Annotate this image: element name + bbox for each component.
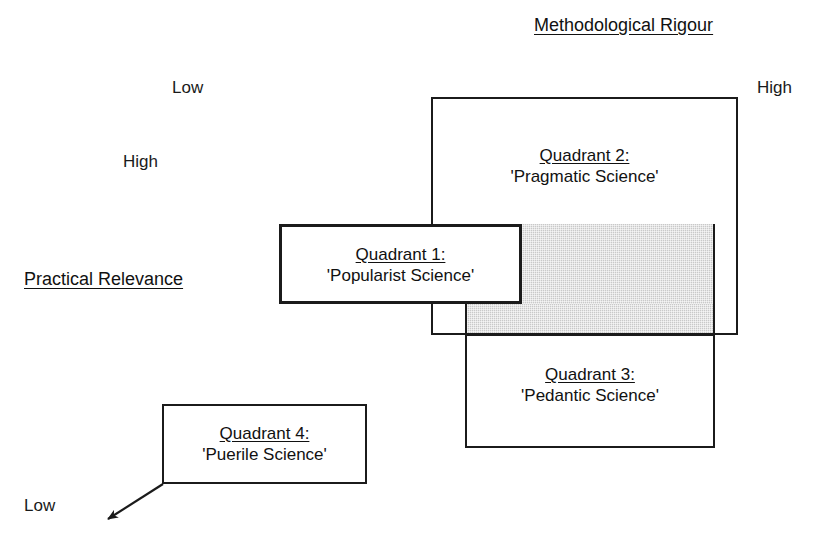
origin-arrow-line (108, 484, 163, 519)
diagram-canvas: Methodological Rigour Low High High Prac… (0, 0, 835, 548)
origin-arrow (0, 0, 835, 548)
